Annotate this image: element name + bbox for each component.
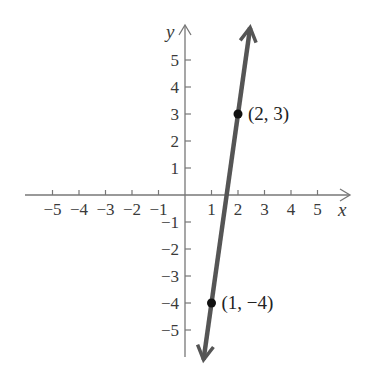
coordinate-plane: −5−4−3−2−11234554321−1−2−3−4−5 (2, 3)(1,… — [0, 0, 374, 375]
x-axis-label: x — [337, 199, 347, 220]
x-tick-label: 2 — [234, 200, 243, 219]
y-tick-label: −3 — [161, 267, 179, 286]
y-axis-label: y — [164, 21, 175, 42]
y-tick-label: 5 — [171, 51, 180, 70]
point-marker — [207, 299, 216, 308]
point-label: (1, −4) — [222, 292, 274, 314]
point-label: (2, 3) — [248, 103, 289, 125]
y-tick-label: 2 — [171, 132, 180, 151]
x-tick-label: −4 — [70, 200, 89, 219]
x-tick-label: 4 — [287, 200, 296, 219]
plotted-points: (2, 3)(1, −4) — [207, 103, 289, 314]
y-tick-label: 1 — [171, 159, 180, 178]
x-tick-label: 1 — [207, 200, 216, 219]
x-tick-label: 3 — [260, 200, 269, 219]
x-tick-label: 5 — [313, 200, 322, 219]
y-tick-label: 3 — [171, 105, 180, 124]
x-tick-label: −3 — [96, 200, 114, 219]
y-tick-label: −2 — [161, 240, 179, 259]
x-tick-label: −5 — [43, 200, 61, 219]
y-tick-label: −5 — [161, 321, 179, 340]
y-tick-label: −4 — [161, 294, 180, 313]
point-marker — [234, 110, 243, 119]
y-tick-label: −1 — [161, 213, 179, 232]
x-tick-label: −2 — [123, 200, 141, 219]
axes — [25, 25, 350, 357]
y-tick-label: 4 — [171, 78, 180, 97]
